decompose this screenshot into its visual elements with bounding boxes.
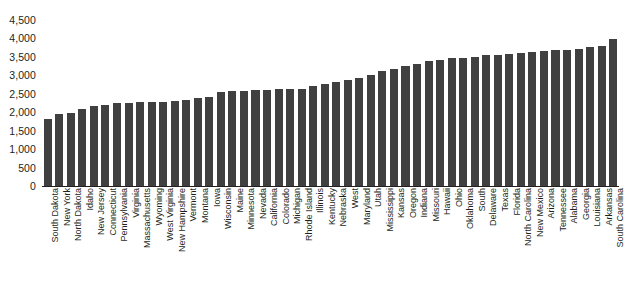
bar — [275, 89, 283, 186]
bar — [228, 91, 236, 186]
x-axis-tick-label: Oklahoma — [466, 188, 475, 229]
bar — [159, 102, 167, 186]
x-axis-tick-label: Rhode Island — [305, 188, 314, 241]
x-axis-tick-label: Colorado — [282, 188, 291, 225]
bar — [471, 57, 479, 186]
bar — [344, 80, 352, 186]
bar — [575, 49, 583, 186]
bar — [217, 92, 225, 186]
bar — [482, 55, 490, 186]
x-axis-line — [42, 186, 619, 187]
bar — [55, 114, 63, 186]
y-axis-tick-label: 3,500 — [9, 51, 36, 63]
x-axis-tick-label: Illinois — [316, 188, 325, 213]
x-axis-tick-label: Arizona — [547, 188, 556, 219]
x-axis-tick-label: Alabama — [570, 188, 579, 224]
y-axis-tick-label: 0 — [30, 180, 36, 192]
x-axis-tick-label: Kansas — [397, 188, 406, 218]
bar — [367, 75, 375, 186]
x-axis-tick-label: Indiana — [420, 188, 429, 218]
bar — [378, 71, 386, 186]
x-axis-tick-label: New Jersey — [97, 188, 106, 235]
bar — [448, 58, 456, 186]
x-axis-tick-label: New Hampshire — [178, 188, 187, 252]
x-axis-tick-label: Oregon — [409, 188, 418, 218]
x-axis-tick-label: Kentucky — [328, 188, 337, 225]
bar — [332, 82, 340, 186]
x-axis-tick-label: Missouri — [432, 188, 441, 222]
bar — [125, 103, 133, 186]
bar — [401, 66, 409, 186]
x-axis-tick-label: New York — [63, 188, 72, 226]
bar — [321, 84, 329, 186]
bar — [598, 46, 606, 186]
y-axis-tick-label: 1,000 — [9, 143, 36, 155]
x-axis-tick-label: Mississippi — [386, 188, 395, 232]
bar — [505, 54, 513, 186]
bar — [67, 113, 75, 186]
y-axis-tick-label: 2,000 — [9, 106, 36, 118]
plot-area — [42, 20, 619, 186]
bar — [136, 102, 144, 186]
bar-series — [42, 20, 619, 186]
bar — [182, 100, 190, 186]
x-axis-tick-label: Hawaii — [443, 188, 452, 215]
x-axis-tick-label: North Carolina — [524, 188, 533, 246]
x-axis-labels: South DakotaNew YorkNorth DakotaIdahoNew… — [42, 188, 619, 281]
y-axis: 4,5004,0003,5003,0002,5002,0001,5001,000… — [0, 0, 40, 281]
x-axis-tick-label: Vermont — [189, 188, 198, 222]
x-axis-tick-label: Nevada — [259, 188, 268, 219]
bar — [78, 109, 86, 186]
x-axis-tick-label: Minnesota — [247, 188, 256, 230]
x-axis-tick-label: Connecticut — [109, 188, 118, 236]
x-axis-tick-label: West Virginia — [166, 188, 175, 241]
y-axis-tick-label: 4,500 — [9, 14, 36, 26]
y-axis-tick-label: 1,500 — [9, 125, 36, 137]
bar — [171, 101, 179, 186]
bar — [494, 55, 502, 186]
y-axis-tick-label: 2,500 — [9, 88, 36, 100]
x-axis-tick-label: Utah — [374, 188, 383, 207]
bar — [563, 50, 571, 186]
bar — [251, 90, 259, 186]
bar — [609, 39, 617, 186]
bar — [586, 47, 594, 186]
y-axis-tick-label: 4,000 — [9, 32, 36, 44]
y-axis-tick-label: 3,000 — [9, 69, 36, 81]
x-axis-tick-label: South — [478, 188, 487, 212]
x-axis-tick-label: North Dakota — [74, 188, 83, 241]
x-axis-tick-label: Iowa — [213, 188, 222, 207]
bar-chart: 4,5004,0003,5003,0002,5002,0001,5001,000… — [0, 0, 630, 281]
x-axis-tick-label: Ohio — [455, 188, 464, 207]
x-axis-tick-label: South Dakota — [51, 188, 60, 243]
x-axis-tick-label: Louisiana — [593, 188, 602, 227]
x-axis-tick-label: California — [270, 188, 279, 226]
y-axis-tick-label: 500 — [18, 162, 36, 174]
x-axis-tick-label: Nebraska — [339, 188, 348, 227]
x-axis-tick-label: Tennessee — [559, 188, 568, 232]
bar — [413, 64, 421, 186]
bar — [194, 98, 202, 186]
bar — [44, 119, 52, 187]
x-axis-tick-label: Georgia — [582, 188, 591, 220]
x-axis-tick-label: Massachusetts — [143, 188, 152, 248]
x-axis-tick-label: South Carolina — [616, 188, 625, 248]
x-axis-tick-label: Florida — [513, 188, 522, 216]
bar — [286, 89, 294, 186]
x-axis-tick-label: Maryland — [363, 188, 372, 225]
x-axis-tick-label: Idaho — [86, 188, 95, 211]
bar — [298, 89, 306, 186]
x-axis-tick-label: Pennsylvania — [120, 188, 129, 242]
x-axis-tick-label: Delaware — [489, 188, 498, 226]
bar — [101, 105, 109, 186]
bar — [551, 50, 559, 186]
bar — [390, 69, 398, 186]
bar — [459, 58, 467, 186]
x-axis-tick-label: Montana — [201, 188, 210, 223]
bar — [309, 86, 317, 186]
bar — [517, 53, 525, 186]
x-axis-tick-label: Arkansas — [605, 188, 614, 226]
bar — [355, 78, 363, 186]
x-axis-tick-label: Maine — [236, 188, 245, 213]
x-axis-tick-label: Wyoming — [155, 188, 164, 225]
